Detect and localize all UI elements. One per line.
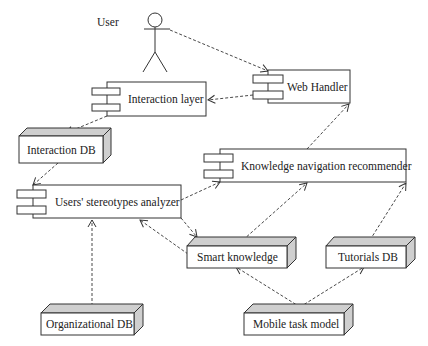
node-tutorials-db[interactable]: Tutorials DB	[326, 237, 415, 268]
component-label: Interaction layer	[128, 93, 204, 106]
node-label: Organizational DB	[46, 318, 133, 331]
component-stereotypes-analyzer[interactable]: Users' stereotypes analyzer	[17, 185, 181, 218]
arrow-analyzer-smartknowledge	[181, 218, 197, 237]
component-label: Users' stereotypes analyzer	[55, 196, 180, 209]
arrow-user-webhandler	[170, 30, 268, 71]
arrow-mobile-smartknowledge	[236, 267, 300, 307]
arrow-webhandler-interactionlayer	[208, 95, 253, 100]
node-label: Tutorials DB	[338, 251, 398, 263]
arrow-mobile-tutorialsdb	[300, 267, 364, 307]
stick-figure-icon	[143, 13, 170, 72]
arrow-analyzer-knowledgenav	[181, 182, 220, 200]
uml-diagram: User Interaction layer Web Handler Inter…	[0, 0, 428, 346]
node-organizational-db[interactable]: Organizational DB	[41, 304, 143, 335]
arrow-knowledgenav-webhandler	[307, 104, 349, 149]
actor-user: User	[97, 13, 170, 72]
node-label: Interaction DB	[27, 144, 96, 156]
node-label: Mobile task model	[253, 318, 339, 330]
node-mobile-task-model[interactable]: Mobile task model	[244, 304, 353, 335]
arrow-smartknowledge-analyzer	[140, 220, 188, 254]
node-interaction-db[interactable]: Interaction DB	[19, 128, 111, 163]
component-knowledge-navigation-recommender[interactable]: Knowledge navigation recommender	[204, 149, 412, 182]
component-interaction-layer[interactable]: Interaction layer	[92, 82, 206, 116]
actor-label: User	[97, 16, 119, 28]
node-smart-knowledge[interactable]: Smart knowledge	[187, 237, 296, 268]
arrow-tutorialsdb-knowledgenav	[370, 183, 406, 240]
arrow-smartknowledge-knowledgenav	[243, 183, 307, 240]
component-label: Knowledge navigation recommender	[241, 160, 412, 173]
arrow-interactiondb-analyzer	[33, 163, 58, 185]
node-label: Smart knowledge	[197, 251, 278, 264]
component-label: Web Handler	[287, 81, 348, 93]
component-web-handler[interactable]: Web Handler	[253, 70, 350, 103]
